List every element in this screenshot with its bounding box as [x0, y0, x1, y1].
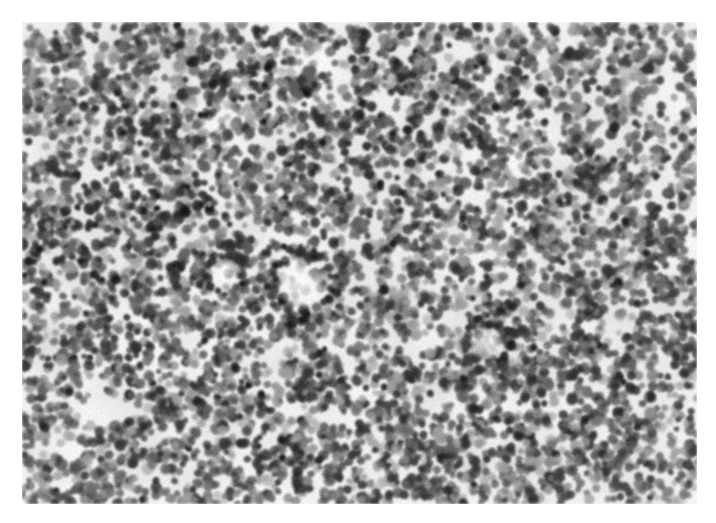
micrograph-figure: High power photomicrograph of densely ce… — [0, 0, 716, 523]
micrograph-image — [22, 22, 697, 504]
micrograph-canvas — [22, 22, 697, 504]
